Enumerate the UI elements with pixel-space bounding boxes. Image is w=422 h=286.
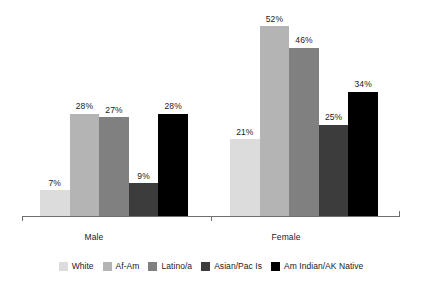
legend-item-asianpacis[interactable]: Asian/Pac Is — [201, 262, 262, 271]
category-label-female: Female — [258, 232, 314, 242]
bar-white-female[interactable] — [230, 139, 260, 216]
legend-label: White — [72, 262, 94, 271]
bar-slot: 28% — [70, 10, 100, 216]
bar-white-male[interactable] — [40, 190, 70, 216]
legend-swatch-icon — [271, 262, 280, 271]
bar-amindian-male[interactable] — [158, 114, 188, 216]
category-label-male: Male — [70, 232, 118, 242]
legend-swatch-icon — [148, 262, 157, 271]
bar-latino-female[interactable] — [289, 48, 319, 216]
bar-value-label: 28% — [76, 102, 93, 111]
bar-slot: 21% — [230, 10, 260, 216]
legend-swatch-icon — [201, 262, 210, 271]
bar-group-male: 7% 28% 27% 9% 28% — [40, 10, 188, 216]
bar-slot: 9% — [129, 10, 159, 216]
axis-tick-right — [399, 211, 400, 217]
bar-slot: 7% — [40, 10, 70, 216]
bar-slot: 25% — [319, 10, 349, 216]
legend-label: Latino/a — [161, 262, 192, 271]
axis-tick-group-separator — [211, 216, 212, 221]
bar-amindian-female[interactable] — [348, 92, 378, 216]
bar-value-label: 52% — [266, 15, 283, 24]
bar-slot: 52% — [260, 10, 290, 216]
bar-asianpacis-male[interactable] — [129, 183, 159, 216]
bar-value-label: 9% — [137, 172, 150, 181]
legend-label: Af-Am — [116, 262, 140, 271]
chart-legend: White Af-Am Latino/a Asian/Pac Is Am Ind… — [0, 262, 422, 271]
bar-latino-male[interactable] — [99, 117, 129, 216]
legend-item-amindian[interactable]: Am Indian/AK Native — [271, 262, 363, 271]
bar-group-female: 21% 52% 46% 25% 34% — [230, 10, 378, 216]
bar-value-label: 25% — [325, 113, 342, 122]
bar-asianpacis-female[interactable] — [319, 125, 349, 216]
axis-tick-left — [22, 216, 23, 221]
legend-swatch-icon — [59, 262, 68, 271]
bar-value-label: 21% — [236, 128, 253, 137]
bar-value-label: 27% — [105, 106, 122, 115]
bar-slot: 46% — [289, 10, 319, 216]
bar-afam-male[interactable] — [70, 114, 100, 216]
bar-slot: 34% — [348, 10, 378, 216]
legend-label: Am Indian/AK Native — [284, 262, 363, 271]
bar-value-label: 34% — [355, 80, 372, 89]
bar-value-label: 46% — [295, 36, 312, 45]
legend-label: Asian/Pac Is — [214, 262, 262, 271]
bar-slot: 28% — [158, 10, 188, 216]
bar-chart: 7% 28% 27% 9% 28% 21% — [0, 0, 422, 286]
bar-slot: 27% — [99, 10, 129, 216]
legend-item-latino[interactable]: Latino/a — [148, 262, 192, 271]
legend-item-white[interactable]: White — [59, 262, 94, 271]
bar-value-label: 7% — [49, 179, 62, 188]
legend-swatch-icon — [103, 262, 112, 271]
plot-area: 7% 28% 27% 9% 28% 21% — [22, 10, 400, 216]
bar-value-label: 28% — [165, 102, 182, 111]
legend-item-afam[interactable]: Af-Am — [103, 262, 140, 271]
bar-afam-female[interactable] — [260, 26, 290, 216]
